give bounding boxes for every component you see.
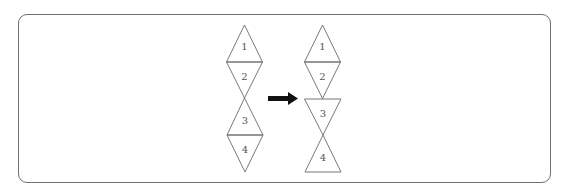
right-label-4: 4 [320,152,326,163]
left-label-3: 3 [242,115,248,126]
right-label-2: 2 [319,71,325,82]
right-label-3: 3 [320,108,326,119]
left-label-4: 4 [242,144,248,155]
right-arrow-icon [268,92,298,105]
right-label-1: 1 [319,41,325,52]
left-label-2: 2 [241,71,247,82]
left-label-1: 1 [241,41,247,52]
diagram-canvas: 1 2 3 4 1 2 3 4 [0,0,566,193]
